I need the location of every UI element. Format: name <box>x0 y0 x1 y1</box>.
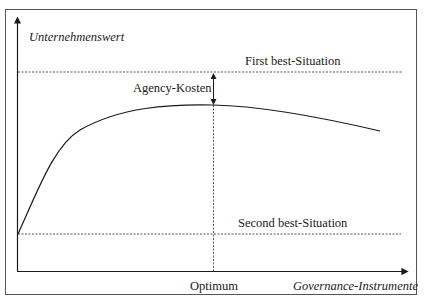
diagram-canvas <box>0 0 424 301</box>
value-curve <box>18 105 380 234</box>
y-axis-label: Unternehmenswert <box>29 30 124 44</box>
agency-cost-label: Agency-Kosten <box>133 81 211 95</box>
first-best-label: First best-Situation <box>245 54 341 68</box>
x-axis-label: Governance-Instrumente <box>293 279 418 293</box>
second-best-label: Second best-Situation <box>238 216 347 230</box>
optimum-label: Optimum <box>190 279 238 293</box>
